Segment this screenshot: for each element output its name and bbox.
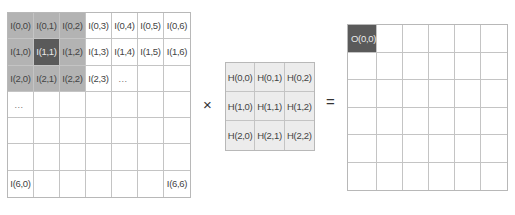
output-matrix-cell xyxy=(348,53,377,81)
input-matrix-cell xyxy=(112,144,138,170)
output-matrix-cell xyxy=(455,25,481,53)
kernel-matrix-cell: H(0,0) xyxy=(226,63,255,92)
input-matrix-cell xyxy=(138,92,164,118)
input-matrix-cell: I(1,0) xyxy=(8,39,34,65)
input-matrix-cell xyxy=(138,144,164,170)
output-matrix-cell xyxy=(455,53,481,81)
output-matrix-cell xyxy=(481,135,507,163)
output-matrix-cell xyxy=(481,80,507,108)
input-matrix-cell: I(0,6) xyxy=(164,13,190,39)
output-matrix-cell xyxy=(403,80,429,108)
output-matrix-cell xyxy=(377,80,403,108)
input-matrix-cell: I(0,4) xyxy=(112,13,138,39)
input-matrix-cell: I(1,3) xyxy=(86,39,112,65)
input-matrix-cell: I(1,6) xyxy=(164,39,190,65)
input-matrix-cell: I(2,1) xyxy=(34,66,60,92)
output-matrix-cell xyxy=(429,108,455,136)
kernel-matrix-cell: H(2,1) xyxy=(255,121,284,150)
output-matrix-cell xyxy=(429,163,455,191)
output-matrix-cell xyxy=(403,135,429,163)
output-matrix-cell xyxy=(429,25,455,53)
input-matrix-cell xyxy=(60,118,86,144)
input-matrix-cell: I(2,2) xyxy=(60,66,86,92)
output-matrix-cell xyxy=(455,108,481,136)
kernel-matrix-cell: H(0,1) xyxy=(255,63,284,92)
input-matrix-cell xyxy=(86,92,112,118)
output-matrix-grid: O(0,0) xyxy=(347,24,508,191)
output-matrix-cell xyxy=(429,135,455,163)
output-matrix-cell xyxy=(377,163,403,191)
input-matrix-cell: I(2,0) xyxy=(8,66,34,92)
output-matrix-cell xyxy=(455,135,481,163)
input-matrix-cell xyxy=(86,144,112,170)
output-matrix-cell xyxy=(455,163,481,191)
kernel-matrix-cell: H(1,0) xyxy=(226,92,255,121)
output-matrix-cell xyxy=(377,53,403,81)
output-matrix-cell xyxy=(348,163,377,191)
equals-operator: = xyxy=(326,93,335,110)
output-matrix-cell xyxy=(377,135,403,163)
output-matrix-cell: O(0,0) xyxy=(348,25,377,53)
input-matrix-cell: I(1,1) xyxy=(34,39,60,65)
input-matrix-cell: I(2,3) xyxy=(86,66,112,92)
output-matrix-cell xyxy=(403,53,429,81)
input-matrix-cell: I(0,0) xyxy=(8,13,34,39)
input-matrix-cell xyxy=(138,171,164,197)
input-matrix-cell: I(1,2) xyxy=(60,39,86,65)
kernel-matrix-cell: H(2,0) xyxy=(226,121,255,150)
input-matrix-cell xyxy=(34,92,60,118)
kernel-matrix-cell: H(2,2) xyxy=(285,121,314,150)
input-matrix-cell xyxy=(86,171,112,197)
kernel-matrix-cell: H(1,2) xyxy=(285,92,314,121)
input-matrix-grid: I(0,0)I(0,1)I(0,2)I(0,3)I(0,4)I(0,5)I(0,… xyxy=(7,12,191,198)
input-matrix-cell xyxy=(60,92,86,118)
output-matrix-cell xyxy=(481,25,507,53)
output-matrix-cell xyxy=(403,108,429,136)
input-matrix-cell: I(1,5) xyxy=(138,39,164,65)
output-matrix-cell xyxy=(429,53,455,81)
input-matrix-cell xyxy=(34,144,60,170)
input-matrix-cell xyxy=(86,118,112,144)
output-matrix-cell xyxy=(348,108,377,136)
input-matrix-cell xyxy=(112,92,138,118)
input-matrix-cell: I(0,2) xyxy=(60,13,86,39)
output-matrix-cell xyxy=(455,80,481,108)
output-matrix-cell xyxy=(403,163,429,191)
output-matrix-cell xyxy=(348,135,377,163)
input-matrix-cell xyxy=(34,118,60,144)
input-matrix-cell xyxy=(60,171,86,197)
input-matrix-cell xyxy=(112,118,138,144)
input-matrix-cell: I(1,4) xyxy=(112,39,138,65)
output-matrix-cell xyxy=(429,80,455,108)
input-matrix-cell xyxy=(8,118,34,144)
input-matrix-cell xyxy=(164,144,190,170)
output-matrix-cell xyxy=(403,25,429,53)
input-matrix-cell: I(6,0) xyxy=(8,171,34,197)
multiply-operator: × xyxy=(203,96,212,113)
input-matrix-cell xyxy=(8,144,34,170)
input-matrix-cell xyxy=(164,66,190,92)
output-matrix-cell xyxy=(481,163,507,191)
input-matrix-cell: I(0,1) xyxy=(34,13,60,39)
output-matrix-cell xyxy=(481,53,507,81)
input-matrix-cell xyxy=(112,171,138,197)
input-matrix-cell: I(6,6) xyxy=(164,171,190,197)
input-matrix-cell xyxy=(34,171,60,197)
output-matrix-cell xyxy=(377,25,403,53)
input-matrix-cell xyxy=(164,118,190,144)
input-matrix-cell xyxy=(60,144,86,170)
output-matrix-cell xyxy=(377,108,403,136)
output-matrix-cell xyxy=(481,108,507,136)
input-matrix-cell: … xyxy=(8,92,34,118)
input-matrix-cell xyxy=(138,118,164,144)
input-matrix-cell xyxy=(138,66,164,92)
output-matrix-cell xyxy=(348,80,377,108)
input-matrix-cell: … xyxy=(112,66,138,92)
input-matrix-cell: I(0,5) xyxy=(138,13,164,39)
kernel-matrix-grid: H(0,0)H(0,1)H(0,2)H(1,0)H(1,1)H(1,2)H(2,… xyxy=(225,62,315,151)
input-matrix-cell: I(0,3) xyxy=(86,13,112,39)
kernel-matrix-cell: H(0,2) xyxy=(285,63,314,92)
input-matrix-cell xyxy=(164,92,190,118)
kernel-matrix-cell: H(1,1) xyxy=(255,92,284,121)
